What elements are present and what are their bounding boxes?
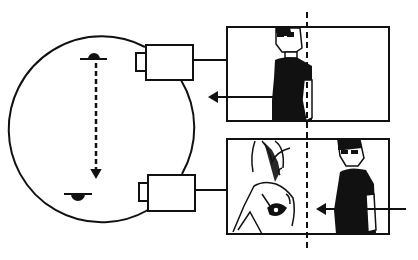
figure-man-bottom	[334, 140, 376, 234]
camera-bottom-icon	[139, 175, 227, 211]
camera-top-icon	[136, 45, 227, 80]
actor-bottom-icon	[64, 194, 92, 200]
set-circle-right-arc	[181, 80, 194, 174]
camera-axis-diagram	[0, 0, 418, 260]
actor-top-icon	[80, 54, 107, 59]
axis-of-action-line	[92, 63, 100, 177]
figure-woman-bottom	[233, 141, 294, 234]
